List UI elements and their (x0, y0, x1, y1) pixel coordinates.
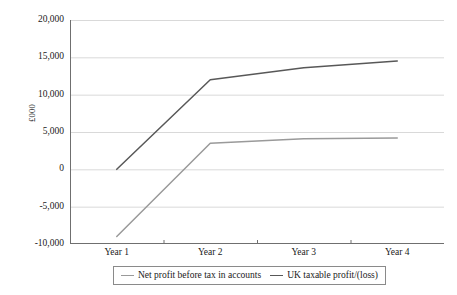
x-axis-tick-label: Year 1 (77, 246, 157, 259)
gridlines (70, 21, 444, 245)
y-axis-tick-label: 10,000 (18, 90, 64, 100)
series-line (117, 138, 398, 237)
x-axis-tick-labels: Year 1Year 2Year 3Year 4 (70, 246, 444, 262)
plot-area (70, 20, 444, 244)
legend-item[interactable]: Net profit before tax in accounts (121, 271, 261, 281)
x-axis-tick-label: Year 4 (357, 246, 437, 259)
series-line (117, 61, 398, 169)
x-axis-tick-label: Year 2 (170, 246, 250, 259)
y-axis-tick-label: -5,000 (18, 202, 64, 212)
y-axis-tick-label: 5,000 (18, 127, 64, 137)
chart-legend: Net profit before tax in accountsUK taxa… (113, 266, 386, 285)
legend-label: Net profit before tax in accounts (138, 271, 261, 281)
x-axis-tick-label: Year 3 (264, 246, 344, 259)
legend-label: UK taxable profit/(loss) (287, 271, 378, 281)
legend-line-swatch (270, 275, 283, 276)
legend-item[interactable]: UK taxable profit/(loss) (270, 271, 378, 281)
y-axis-tick-label: 20,000 (18, 15, 64, 25)
y-axis-tick-label: 15,000 (18, 52, 64, 62)
y-axis-tick-label: 0 (18, 164, 64, 174)
plot-svg (70, 20, 444, 244)
legend-line-swatch (121, 275, 134, 276)
y-axis-tick-label: -10,000 (18, 239, 64, 249)
series-lines (117, 61, 398, 236)
y-axis-tick-labels: 20,00015,00010,0005,0000-5,000-10,000 (18, 0, 64, 295)
line-chart-figure: £000 20,00015,00010,0005,0000-5,000-10,0… (0, 0, 457, 295)
